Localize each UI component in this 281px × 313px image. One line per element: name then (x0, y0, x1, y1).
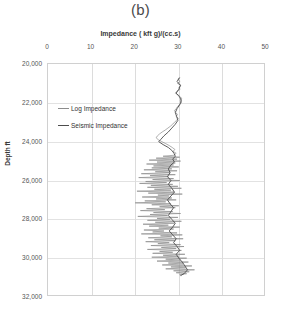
chart-legend: Log ImpedanceSeismic Impedance (58, 105, 146, 139)
x-tick-label: 40 (209, 43, 233, 50)
legend-item[interactable]: Log Impedance (58, 105, 146, 113)
x-tick-label: 30 (166, 43, 190, 50)
panel-title: (b) (0, 1, 281, 18)
x-axis-tick-labels: 01020304050 (47, 43, 265, 54)
y-axis-tick-labels: 20,00022,00024,00026,00028,00030,00032,0… (0, 63, 45, 296)
legend-label: Seismic Impedance (71, 122, 128, 130)
legend-line-icon (58, 125, 69, 126)
legend-label: Log Impedance (71, 105, 116, 113)
y-tick-label: 20,000 (0, 60, 42, 67)
impedance-depth-figure: (b) Impedance ( kft g)/(cc.s) 0102030405… (0, 0, 281, 313)
y-axis-title: Depth ft (4, 131, 11, 177)
legend-item[interactable]: Seismic Impedance (58, 122, 146, 130)
x-axis-title: Impedance ( kft g)/(cc.s) (0, 30, 281, 37)
legend-line-icon (58, 108, 69, 109)
y-tick-label: 22,000 (0, 98, 42, 105)
x-tick-label: 10 (79, 43, 103, 50)
y-tick-label: 26,000 (0, 176, 42, 183)
data-traces (48, 64, 266, 297)
x-tick-label: 20 (122, 43, 146, 50)
plot-area: Log ImpedanceSeismic Impedance (47, 63, 265, 296)
y-tick-label: 28,000 (0, 215, 42, 222)
y-tick-label: 32,000 (0, 293, 42, 300)
x-tick-label: 0 (35, 43, 59, 50)
y-tick-label: 30,000 (0, 254, 42, 261)
x-tick-label: 50 (253, 43, 277, 50)
